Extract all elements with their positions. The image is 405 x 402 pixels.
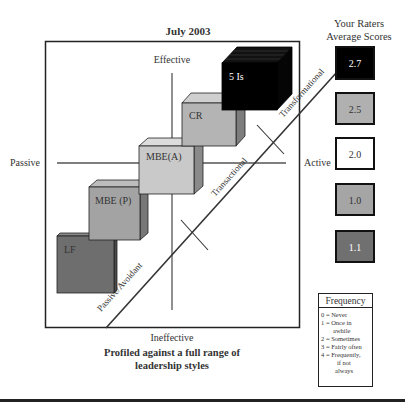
frequency-line: always <box>335 367 354 374</box>
svg-text:1.1: 1.1 <box>349 242 362 253</box>
cube-label: LF <box>64 244 76 255</box>
frequency-line: 2 = Sometimes <box>321 335 361 342</box>
svg-text:1.0: 1.0 <box>349 195 362 206</box>
axis-label-ineffective: Ineffective <box>150 332 194 343</box>
score-box-3: 2.0 <box>336 138 374 169</box>
score-box-4: 1.0 <box>336 184 374 215</box>
frequency-line: 1 = Once in <box>321 319 352 326</box>
svg-text:2.5: 2.5 <box>349 104 362 115</box>
frequency-line: 3 = Fairly often <box>321 343 362 350</box>
caption-line2: leadership styles <box>135 360 209 371</box>
cube-lf: LF <box>57 233 117 293</box>
score-box-2: 2.5 <box>336 93 374 124</box>
axis-label-passive: Passive <box>10 157 41 168</box>
cube-label: 5 Is <box>229 71 244 82</box>
svg-text:2.7: 2.7 <box>349 58 362 69</box>
cross-tick-upper <box>257 125 284 154</box>
full-range-leadership-diagram: July 2003 Your Raters Average Scores Eff… <box>0 0 405 402</box>
scores-title-line2: Average Scores <box>326 31 391 42</box>
frequency-title: Frequency <box>325 296 365 306</box>
score-box-1: 2.7 <box>336 47 374 79</box>
caption-line1: Profiled against a full range of <box>104 347 241 358</box>
frequency-line: 0 = Never <box>321 311 348 318</box>
frequency-line: awhile <box>333 327 350 334</box>
svg-text:2.0: 2.0 <box>349 149 362 160</box>
cube-label: CR <box>189 110 203 121</box>
axis-label-active: Active <box>304 157 331 168</box>
scores-title-line1: Your Raters <box>334 18 384 29</box>
score-box-5: 1.1 <box>336 231 374 262</box>
frequency-line: if not <box>337 359 351 366</box>
axis-label-effective: Effective <box>154 54 191 65</box>
frequency-legend: Frequency 0 = Never 1 = Once in awhile 2… <box>319 294 373 387</box>
cube-5-is: 5 Is <box>222 47 292 110</box>
cube-label: MBE (P) <box>95 195 131 207</box>
cross-tick-lower <box>181 220 208 250</box>
cube-label: MBE(A) <box>146 151 182 163</box>
date-title: July 2003 <box>166 25 211 37</box>
frequency-line: 4 = Frequently, <box>321 351 361 358</box>
